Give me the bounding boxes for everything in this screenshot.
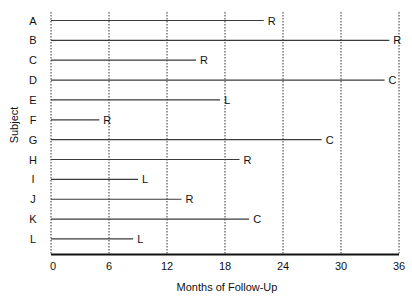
follow-up-chart: ARBRCRDCELFRGCHRILJRKCLL 061218243036 Mo… [0,0,412,299]
x-tick-label: 18 [219,260,231,272]
outcome-label: C [326,134,334,146]
subject-row-f: FR [30,114,112,126]
x-tick-label: 0 [50,260,56,272]
x-tick-label: 12 [161,260,173,272]
subject-label: H [29,154,37,166]
outcome-label: L [142,173,148,185]
outcome-label: C [253,213,261,225]
outcome-label: L [224,94,230,106]
y-axis-title: Subject [8,107,20,144]
subject-row-l: LL [30,233,143,245]
subject-label: F [30,114,37,126]
subject-row-h: HR [29,154,251,166]
subject-row-i: IL [31,173,148,185]
subject-row-b: BR [29,34,401,46]
x-tick-label: 36 [393,260,405,272]
x-axis-ticks: 061218243036 [50,260,405,272]
subject-label: G [29,134,38,146]
x-tick-label: 6 [106,260,112,272]
gridlines [51,12,399,255]
x-tick-label: 30 [335,260,347,272]
outcome-label: C [389,74,397,86]
subject-row-g: GC [29,134,334,146]
subject-row-a: AR [29,15,275,27]
subject-row-c: CR [29,54,208,66]
subject-rows: ARBRCRDCELFRGCHRILJRKCLL [29,15,402,245]
chart-canvas: ARBRCRDCELFRGCHRILJRKCLL 061218243036 Mo… [0,0,412,299]
outcome-label: R [186,193,194,205]
subject-row-j: JR [30,193,193,205]
subject-label: J [30,193,36,205]
subject-label: B [29,34,36,46]
outcome-label: R [103,114,111,126]
outcome-label: L [137,233,143,245]
outcome-label: R [268,15,276,27]
outcome-label: R [393,34,401,46]
subject-label: L [30,233,36,245]
outcome-label: R [244,154,252,166]
subject-row-e: EL [29,94,230,106]
subject-label: D [29,74,37,86]
x-tick-label: 24 [277,260,289,272]
outcome-label: R [200,54,208,66]
subject-label: A [29,15,37,27]
subject-label: K [29,213,37,225]
x-axis-title: Months of Follow-Up [177,281,278,293]
subject-row-k: KC [29,213,261,225]
subject-label: E [29,94,36,106]
subject-label: C [29,54,37,66]
subject-label: I [31,173,34,185]
